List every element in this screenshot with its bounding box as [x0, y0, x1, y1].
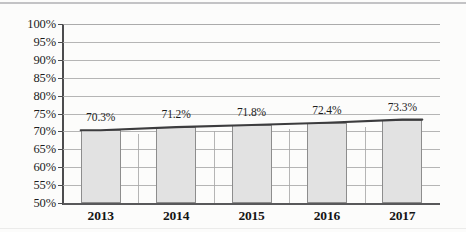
y-axis-tick-label: 50% [4, 196, 56, 211]
y-axis-tick-label: 85% [4, 70, 56, 85]
y-axis-tick [58, 185, 62, 186]
x-axis-category-label: 2017 [389, 208, 415, 224]
data-label: 70.3% [86, 111, 115, 123]
scan-edge-bottom [0, 228, 466, 229]
x-axis-category-label: 2014 [163, 208, 189, 224]
gridline [63, 203, 440, 205]
y-axis-tick [58, 149, 62, 150]
gridline [63, 96, 440, 97]
y-axis-tick [58, 96, 62, 97]
data-label: 72.4% [312, 104, 341, 116]
scan-edge-top [0, 2, 466, 4]
gridline [63, 60, 440, 61]
category-separator [214, 131, 215, 203]
y-axis-tick [58, 167, 62, 168]
category-separator [289, 129, 290, 203]
y-axis-tick [58, 78, 62, 79]
y-axis-tick-label: 80% [4, 88, 56, 103]
x-axis-category-label: 2016 [314, 208, 340, 224]
data-label: 71.2% [161, 108, 190, 120]
y-axis-labels: 100%95%90%85%80%75%70%65%60%55%50% [0, 24, 56, 203]
y-axis-tick-label: 65% [4, 142, 56, 157]
y-axis-tick-label: 70% [4, 124, 56, 139]
bar [81, 130, 121, 203]
category-separator [138, 134, 139, 203]
category-separator [365, 127, 366, 203]
data-label: 73.3% [388, 101, 417, 113]
bar [382, 120, 422, 203]
y-axis-tick-label: 100% [4, 17, 56, 32]
y-axis-tick [58, 114, 62, 115]
y-axis-tick [58, 60, 62, 61]
bar [307, 123, 347, 203]
bar [156, 127, 196, 203]
chart-container: 100%95%90%85%80%75%70%65%60%55%50% 70.3%… [0, 0, 466, 232]
y-axis-tick-label: 75% [4, 106, 56, 121]
y-axis-tick [58, 131, 62, 132]
y-axis-tick-label: 90% [4, 52, 56, 67]
bar [232, 125, 272, 203]
y-axis-tick-label: 55% [4, 178, 56, 193]
y-axis-tick-label: 95% [4, 34, 56, 49]
y-axis-tick [58, 203, 62, 204]
gridline [63, 24, 440, 25]
data-label: 71.8% [237, 106, 266, 118]
gridline [63, 78, 440, 79]
y-axis-tick [58, 24, 62, 25]
y-axis-tick-label: 60% [4, 160, 56, 175]
x-axis-category-label: 2015 [238, 208, 264, 224]
y-axis-tick [58, 42, 62, 43]
gridline [63, 42, 440, 43]
x-axis-category-label: 2013 [88, 208, 114, 224]
